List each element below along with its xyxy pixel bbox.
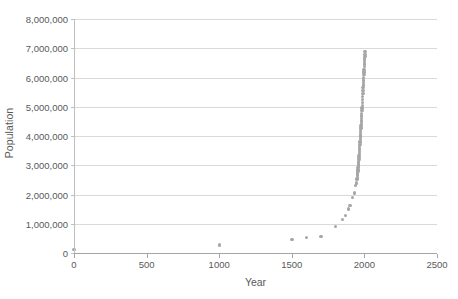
y-axis-title-label: Population — [3, 107, 15, 158]
x-axis-title: Year — [74, 276, 437, 288]
data-point — [344, 214, 347, 217]
x-axis-tick-mark — [364, 254, 365, 258]
data-points-layer — [74, 19, 437, 253]
data-point — [348, 204, 351, 207]
y-axis-tick-label: 1,000,000 — [26, 218, 68, 229]
y-axis-title: Population — [0, 0, 18, 265]
y-axis-tick-label: 4,000,000 — [26, 131, 68, 142]
data-point — [361, 104, 364, 107]
x-axis-tick-label: 2500 — [426, 259, 447, 270]
data-point — [361, 101, 364, 104]
data-point — [334, 225, 337, 228]
data-point — [361, 92, 364, 95]
x-axis-tick-mark — [74, 254, 75, 258]
x-axis-tick-label: 1500 — [281, 259, 302, 270]
x-axis-tick-label: 0 — [71, 259, 76, 270]
y-axis-tick-label: 5,000,000 — [26, 101, 68, 112]
y-axis-line — [74, 19, 75, 254]
data-point — [355, 181, 358, 184]
y-axis-tick-label: 6,000,000 — [26, 72, 68, 83]
data-point — [354, 184, 357, 187]
y-axis-tick-label: 0 — [63, 248, 68, 259]
data-point — [353, 191, 356, 194]
data-point — [305, 236, 308, 239]
x-axis-tick-labels: 05001000150020002500 — [74, 259, 437, 275]
x-axis-tick-mark — [292, 254, 293, 258]
data-point — [319, 235, 322, 238]
x-axis-tick-mark — [147, 254, 148, 258]
x-axis-tick-label: 500 — [139, 259, 155, 270]
y-axis-tick-labels: 01,000,0002,000,0003,000,0004,000,0005,0… — [18, 0, 72, 299]
data-point — [290, 238, 293, 241]
data-point — [361, 95, 364, 98]
y-axis-tick-label: 7,000,000 — [26, 43, 68, 54]
population-scatter-chart: Population 01,000,0002,000,0003,000,0004… — [0, 0, 458, 299]
data-point — [362, 68, 365, 71]
data-point — [341, 218, 344, 221]
data-point — [361, 89, 364, 92]
data-point — [363, 53, 366, 56]
plot-area — [74, 19, 437, 253]
y-axis-tick-label: 2,000,000 — [26, 189, 68, 200]
y-axis-tick-label: 8,000,000 — [26, 14, 68, 25]
y-axis-tick-label: 3,000,000 — [26, 160, 68, 171]
x-axis-tick-mark — [219, 254, 220, 258]
x-axis-tick-mark — [437, 254, 438, 258]
data-point — [351, 196, 354, 199]
data-point — [218, 243, 221, 246]
x-axis-tick-label: 1000 — [209, 259, 230, 270]
x-axis-tick-label: 2000 — [354, 259, 375, 270]
data-point — [347, 207, 350, 210]
